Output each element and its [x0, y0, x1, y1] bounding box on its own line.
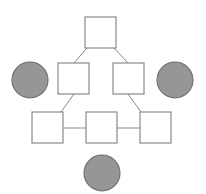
node-square-middle-left[interactable] [58, 63, 89, 94]
edge-middle-left-to-bottom-left [61, 94, 74, 112]
node-link-diagram [0, 0, 206, 194]
edge-middle-right-to-bottom-right [128, 94, 141, 112]
node-square-bottom-right[interactable] [140, 112, 171, 143]
diagram-canvas [0, 0, 206, 194]
node-square-bottom-center[interactable] [86, 112, 117, 143]
node-square-middle-right[interactable] [113, 63, 144, 94]
node-circle-left[interactable] [12, 62, 48, 98]
edge-top-to-middle-left [74, 48, 87, 63]
node-circle-right[interactable] [157, 62, 193, 98]
node-group [12, 17, 193, 191]
node-circle-bottom[interactable] [84, 155, 120, 191]
node-square-bottom-left[interactable] [32, 112, 63, 143]
node-square-top[interactable] [85, 17, 116, 48]
edge-top-to-middle-right [114, 48, 128, 63]
